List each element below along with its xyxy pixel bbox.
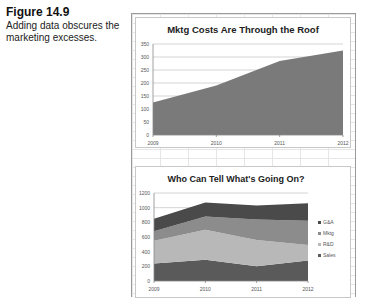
legend-swatch — [318, 243, 321, 246]
figure-description: Adding data obscures the marketing exces… — [6, 20, 124, 44]
x-tick-label: 2010 — [211, 140, 222, 146]
figure-number: Figure 14.9 — [6, 6, 124, 19]
y-tick-label: 600 — [142, 234, 151, 240]
y-tick-label: 800 — [142, 219, 151, 225]
y-tick-label: 300 — [141, 54, 150, 60]
stacked-costs-plot: Who Can Tell What's Going On?02004006008… — [136, 167, 350, 297]
figure-caption: Figure 14.9 Adding data obscures the mar… — [6, 6, 124, 44]
y-tick-label: 1000 — [139, 205, 150, 211]
legend-swatch — [318, 221, 321, 224]
x-tick-label: 2009 — [147, 140, 158, 146]
y-tick-label: 1200 — [139, 190, 150, 196]
mktg-costs-plot: Mktg Costs Are Through the Roof050100150… — [136, 18, 350, 147]
mktg-costs-chart: Mktg Costs Are Through the Roof050100150… — [135, 17, 351, 148]
y-tick-label: 200 — [142, 263, 151, 269]
y-tick-label: 50 — [143, 119, 149, 125]
y-tick-label: 400 — [142, 249, 151, 255]
y-tick-label: 0 — [146, 132, 149, 138]
legend-label: Mktg — [323, 230, 334, 236]
legend-label: Sales — [323, 252, 336, 258]
y-tick-label: 200 — [141, 80, 150, 86]
chart-title: Mktg Costs Are Through the Roof — [167, 24, 319, 35]
y-tick-label: 250 — [141, 67, 150, 73]
y-tick-label: 350 — [141, 41, 150, 47]
y-tick-label: 150 — [141, 93, 150, 99]
legend-label: G&A — [323, 219, 334, 225]
chart-title: Who Can Tell What's Going On? — [168, 174, 305, 184]
x-tick-label: 2009 — [148, 286, 159, 292]
legend-swatch — [318, 254, 321, 257]
legend-label: R&D — [323, 241, 334, 247]
x-tick-label: 2011 — [251, 286, 262, 292]
y-tick-label: 100 — [141, 106, 150, 112]
x-tick-label: 2012 — [302, 286, 313, 292]
y-tick-label: 0 — [147, 278, 150, 284]
x-tick-label: 2011 — [274, 140, 285, 146]
area-mktg — [153, 51, 343, 136]
stacked-costs-chart: Who Can Tell What's Going On?02004006008… — [135, 166, 351, 298]
x-tick-label: 2010 — [200, 286, 211, 292]
legend-swatch — [318, 232, 321, 235]
x-tick-label: 2012 — [337, 140, 348, 146]
